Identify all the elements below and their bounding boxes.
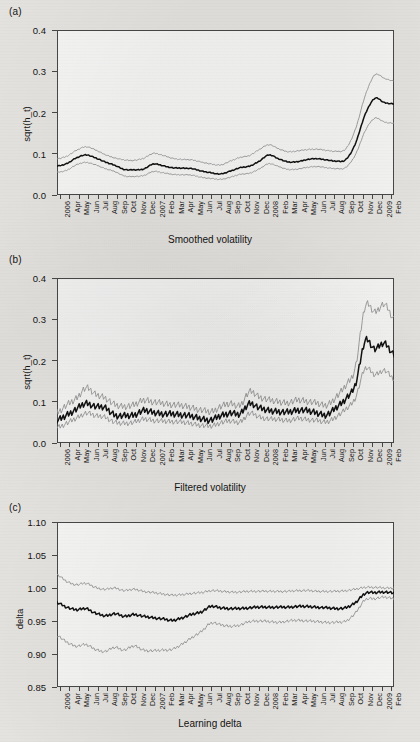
x-tick-label: Feb xyxy=(281,449,290,462)
x-tick-label: Dec xyxy=(262,201,271,214)
x-tick-label: Apr xyxy=(186,449,195,461)
x-tick-mark xyxy=(192,195,193,199)
x-tick-label: Mar xyxy=(177,449,186,462)
x-tick-mark xyxy=(306,687,307,691)
x-tick-mark xyxy=(230,443,231,447)
y-tick-label: 0.0 xyxy=(33,190,46,201)
x-tick-mark xyxy=(126,687,127,691)
x-tick-label: Jul xyxy=(328,693,337,703)
y-tick-mark xyxy=(52,112,57,113)
x-tick-mark xyxy=(107,195,108,199)
x-tick-mark xyxy=(145,687,146,691)
x-tick-label: Dec xyxy=(375,201,384,214)
x-tick-label: 2007 xyxy=(158,693,167,709)
x-tick-mark xyxy=(155,687,156,691)
x-tick-label: Jun xyxy=(92,449,101,461)
x-tick-label: Sep xyxy=(233,201,242,214)
y-tick-mark xyxy=(52,654,57,655)
x-tick-label: 2008 xyxy=(271,201,280,217)
x-tick-label: 2008 xyxy=(271,693,280,709)
x-tick-label: Oct xyxy=(243,449,252,460)
x-tick-mark xyxy=(287,195,288,199)
x-tick-mark xyxy=(353,443,354,447)
x-tick-label: Nov xyxy=(252,449,261,462)
x-tick-mark xyxy=(98,687,99,691)
x-tick-mark xyxy=(192,443,193,447)
x-tick-label: 2009 xyxy=(385,449,394,465)
y-tick-mark xyxy=(52,621,57,622)
x-tick-label: Dec xyxy=(375,693,384,706)
x-tick-label: Feb xyxy=(167,449,176,462)
x-tick-label: May xyxy=(196,693,205,707)
x-tick-mark xyxy=(211,443,212,447)
credible-band-line xyxy=(57,366,394,428)
x-tick-mark xyxy=(88,443,89,447)
x-tick-label: Nov xyxy=(139,693,148,706)
x-tick-mark xyxy=(315,195,316,199)
panel-a-y-tick-labels: 0.00.10.20.30.4 xyxy=(0,30,57,195)
x-tick-mark xyxy=(202,195,203,199)
x-tick-mark xyxy=(249,195,250,199)
x-tick-mark xyxy=(334,443,335,447)
x-tick-label: Mar xyxy=(290,693,299,706)
x-tick-mark xyxy=(363,687,364,691)
x-tick-label: Dec xyxy=(262,693,271,706)
x-tick-mark xyxy=(60,195,61,199)
x-tick-mark xyxy=(296,443,297,447)
x-tick-mark xyxy=(202,443,203,447)
panel-a-series-svg xyxy=(57,30,394,195)
x-tick-mark xyxy=(155,195,156,199)
panel-c-caption: Learning delta xyxy=(0,718,420,729)
panel-a-smoothed-volatility: (a) sqrt(h_t) 0.00.10.20.30.4 2006AprMay… xyxy=(0,0,420,248)
x-tick-mark xyxy=(382,443,383,447)
credible-band-line xyxy=(57,301,394,415)
x-tick-mark xyxy=(372,443,373,447)
x-tick-mark xyxy=(382,195,383,199)
x-tick-mark xyxy=(126,195,127,199)
x-tick-mark xyxy=(240,687,241,691)
x-tick-mark xyxy=(268,443,269,447)
x-tick-label: Apr xyxy=(300,693,309,705)
y-tick-mark xyxy=(52,71,57,72)
x-tick-mark xyxy=(69,195,70,199)
panel-b-filtered-volatility: (b) sqrt(h_t) 0.00.10.20.30.4 2006AprMay… xyxy=(0,248,420,496)
x-tick-label: Sep xyxy=(233,693,242,706)
x-tick-mark xyxy=(296,195,297,199)
x-tick-mark xyxy=(107,443,108,447)
x-tick-label: Jun xyxy=(319,449,328,461)
x-tick-label: May xyxy=(309,693,318,707)
x-tick-mark xyxy=(211,687,212,691)
credible-band-line xyxy=(57,117,394,179)
x-tick-mark xyxy=(98,443,99,447)
x-tick-label: Aug xyxy=(110,693,119,706)
x-tick-label: Sep xyxy=(120,449,129,462)
x-tick-mark xyxy=(155,443,156,447)
x-tick-label: May xyxy=(309,201,318,215)
x-tick-label: Sep xyxy=(347,693,356,706)
credible-band-line xyxy=(57,596,394,653)
x-tick-label: Nov xyxy=(252,693,261,706)
x-tick-label: Apr xyxy=(73,693,82,705)
x-tick-label: Aug xyxy=(224,449,233,462)
panel-a-caption: Smoothed volatility xyxy=(0,234,420,245)
x-tick-label: Aug xyxy=(337,449,346,462)
x-tick-mark xyxy=(192,687,193,691)
x-tick-label: Nov xyxy=(252,201,261,214)
x-tick-mark xyxy=(60,687,61,691)
x-tick-mark xyxy=(315,687,316,691)
x-tick-mark xyxy=(145,195,146,199)
x-tick-label: Feb xyxy=(394,693,403,706)
x-tick-label: Oct xyxy=(243,693,252,704)
x-tick-mark xyxy=(136,443,137,447)
panel-b-series-svg xyxy=(57,278,394,443)
x-tick-label: Sep xyxy=(120,201,129,214)
y-tick-label: 1.10 xyxy=(28,517,47,528)
panel-c-learning-delta: (c) delta 0.850.900.951.001.051.10 2006A… xyxy=(0,496,420,742)
x-tick-mark xyxy=(278,687,279,691)
panel-b-plot-area xyxy=(57,278,394,443)
x-tick-mark xyxy=(287,687,288,691)
x-tick-label: May xyxy=(82,449,91,463)
x-tick-label: Aug xyxy=(224,693,233,706)
x-tick-mark xyxy=(344,443,345,447)
x-tick-label: Jun xyxy=(92,201,101,213)
